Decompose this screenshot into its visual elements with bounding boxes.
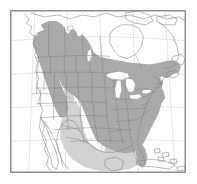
map-frame — [10, 10, 186, 173]
lake-great-slave — [67, 26, 73, 31]
map-canvas — [11, 11, 185, 172]
north-america-distribution-map: Distribution map of North America Shaded… — [0, 0, 197, 184]
